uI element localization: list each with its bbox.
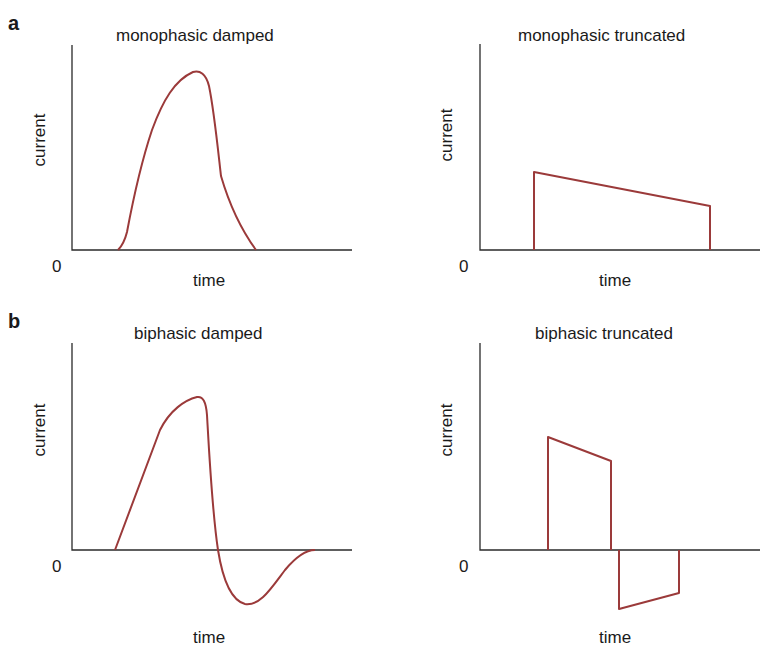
waveform-biphasic-truncated-positive-phase [548,437,611,550]
plot-biphasic-truncated [480,343,760,609]
axes-monophasic-truncated [480,44,760,250]
plot-monophasic-truncated [480,44,760,250]
axes-monophasic-damped [72,45,352,250]
waveform-biphasic-damped [115,397,315,604]
axes-biphasic-damped [72,343,352,550]
axes-biphasic-truncated [480,343,760,550]
waveform-plots [0,0,770,657]
plot-biphasic-damped [72,343,352,604]
waveform-biphasic-truncated-negative-phase [619,550,679,609]
plot-monophasic-damped [72,45,352,250]
waveform-monophasic-truncated [534,172,710,250]
waveform-monophasic-damped [118,72,256,250]
